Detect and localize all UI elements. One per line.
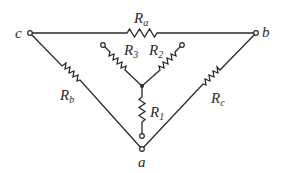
terminal-b — [254, 31, 259, 36]
resistor-label-r3: R3 — [124, 43, 138, 58]
resistor-ra-wire — [30, 29, 256, 37]
resistor-label-rb: Rb — [60, 88, 74, 103]
resistor-label-ra: Ra — [134, 11, 148, 26]
resistor-label-r2: R2 — [149, 43, 163, 58]
terminal-c — [28, 31, 33, 36]
terminal-r1-end — [140, 134, 145, 139]
wye-center-junction — [140, 84, 144, 88]
node-label-a: a — [138, 155, 146, 170]
resistor-r1-wire — [139, 86, 145, 135]
resistor-label-r1: R1 — [150, 105, 164, 120]
terminal-r2-end — [180, 43, 185, 48]
node-label-c: c — [15, 26, 22, 41]
resistor-label-rc: Rc — [211, 91, 225, 106]
node-label-b: b — [262, 25, 270, 40]
circuit-diagram: c b a Ra Rb Rc R3 R2 R1 — [0, 0, 282, 173]
terminal-r3-end — [101, 43, 106, 48]
terminal-a — [140, 147, 145, 152]
